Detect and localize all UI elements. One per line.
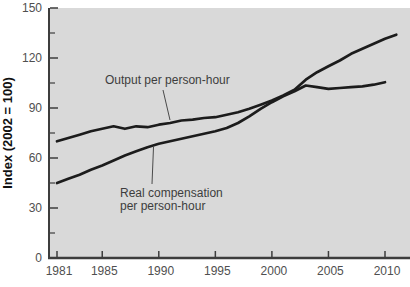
output-series-label: Output per person-hour xyxy=(105,73,230,87)
x-tick-label-1981: 1981 xyxy=(46,264,73,278)
compensation-series-label-line2: per person-hour xyxy=(120,199,205,213)
y-tick-label-120: 120 xyxy=(22,51,42,65)
x-tick-label-1990: 1990 xyxy=(147,264,174,278)
compensation-series-label-line1: Real compensation xyxy=(120,186,223,200)
y-tick-label-30: 30 xyxy=(29,201,43,215)
x-tick-label-1995: 1995 xyxy=(204,264,231,278)
y-tick-label-60: 60 xyxy=(29,151,43,165)
x-tick-label-2010: 2010 xyxy=(374,264,401,278)
x-tick-label-1985: 1985 xyxy=(91,264,118,278)
y-tick-label-0: 0 xyxy=(35,251,42,265)
x-tick-label-2005: 2005 xyxy=(317,264,344,278)
y-tick-label-150: 150 xyxy=(22,1,42,15)
x-tick-label-2000: 2000 xyxy=(261,264,288,278)
y-axis-title: Index (2002 = 100) xyxy=(0,77,15,189)
productivity-compensation-chart: 0306090120150198119851990199520002005201… xyxy=(0,0,410,287)
line-chart-canvas: 0306090120150198119851990199520002005201… xyxy=(0,0,410,287)
y-tick-label-90: 90 xyxy=(29,101,43,115)
plot-background xyxy=(50,8,410,258)
